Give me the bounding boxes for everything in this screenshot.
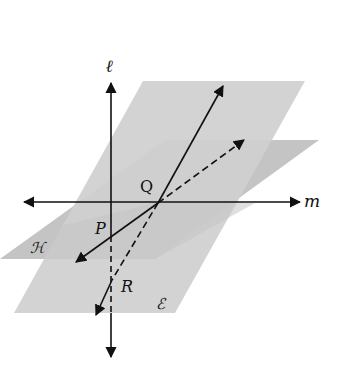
- label-p: P: [94, 219, 106, 238]
- plane-e: [14, 81, 305, 313]
- label-plane-h: ℋ: [30, 239, 47, 257]
- label-l: ℓ: [106, 56, 113, 76]
- geometry-diagram: ℓ m Q P R ℋ ℰ: [0, 0, 346, 366]
- label-r: R: [120, 277, 133, 296]
- label-m: m: [304, 191, 320, 211]
- label-q: Q: [140, 177, 153, 196]
